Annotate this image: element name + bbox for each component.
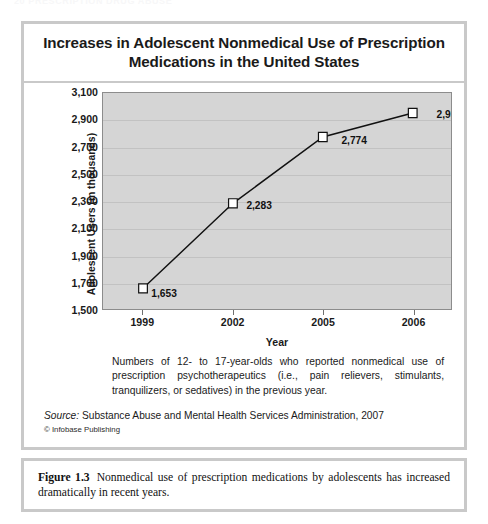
series-line: [143, 113, 413, 288]
x-axis-tickmark: [323, 310, 324, 315]
x-axis-tickmark: [142, 310, 143, 315]
data-point-label: 2,283: [246, 200, 272, 211]
source-text: Substance Abuse and Mental Health Servic…: [82, 410, 384, 421]
figure-number: Figure 1.3: [38, 471, 90, 484]
x-axis-tick-2006: 2006: [402, 316, 426, 328]
x-axis-title: Year: [102, 336, 452, 348]
y-axis-tick-2700: 2,700: [71, 141, 98, 153]
source-line: Source: Substance Abuse and Mental Healt…: [44, 410, 454, 421]
data-point-label: 1,653: [151, 288, 177, 299]
x-axis-tick-2005: 2005: [311, 316, 335, 328]
chart-figure-frame: Increases in Adolescent Nonmedical Use o…: [21, 21, 467, 450]
data-point-marker: [229, 199, 238, 208]
x-axis-tick-1999: 1999: [130, 316, 154, 328]
y-axis-tick-2900: 2,900: [71, 113, 98, 125]
y-axis-tick-3100: 3,100: [71, 86, 98, 98]
y-axis-tick-2300: 2,300: [71, 195, 98, 207]
source-label: Source:: [44, 410, 79, 421]
y-axis-tick-2100: 2,100: [71, 222, 98, 234]
y-axis-tick-1900: 1,900: [71, 250, 98, 262]
data-point-marker: [408, 108, 417, 117]
chart-note: Numbers of 12- to 17-year-olds who repor…: [112, 355, 444, 398]
copyright-line: © Infobase Publishing: [44, 425, 454, 434]
data-point-marker: [318, 132, 327, 141]
y-axis-tick-2500: 2,500: [71, 168, 98, 180]
figure-caption-box: Figure 1.3Nonmedical use of prescription…: [21, 458, 467, 512]
y-axis-tick-labels: 3,1002,9002,7002,5002,3002,1001,9001,700…: [56, 92, 102, 310]
chart-title-line-2: Medications in the United States: [38, 52, 450, 71]
x-axis-tickmark: [233, 310, 234, 315]
chart-title-panel: Increases in Adolescent Nonmedical Use o…: [24, 24, 464, 83]
y-axis-tick-1700: 1,700: [71, 277, 98, 289]
chart-body: Adolescent Users (in thousands) 3,1002,9…: [24, 83, 464, 440]
plot-wrapper: Adolescent Users (in thousands) 3,1002,9…: [34, 92, 454, 335]
data-point-marker: [139, 284, 148, 293]
figure-caption-body: Nonmedical use of prescription medicatio…: [38, 471, 450, 499]
x-axis-tick-2002: 2002: [221, 316, 245, 328]
figure-caption-text: Figure 1.3Nonmedical use of prescription…: [38, 470, 450, 500]
chart-title-line-1: Increases in Adolescent Nonmedical Use o…: [38, 33, 450, 52]
x-axis-tickmark: [414, 310, 415, 315]
data-point-label: 2,952: [437, 109, 452, 120]
x-axis-tick-labels: 1999200220052006: [102, 310, 452, 334]
series-line-chart: [103, 93, 451, 309]
data-point-label: 2,774: [341, 135, 367, 146]
y-axis-tick-1500: 1,500: [71, 304, 98, 316]
running-head: 20 PRESCRIPTION DRUG ABUSE: [14, 0, 344, 8]
plot-area: 1,6532,2832,7742,952: [102, 92, 452, 310]
